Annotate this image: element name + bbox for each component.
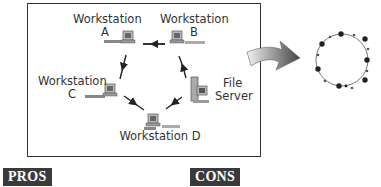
label-line: Workstation D xyxy=(118,130,202,143)
file-server-label: File Server xyxy=(215,77,253,103)
workstation-a-label: Workstation A xyxy=(73,13,135,39)
label-line: A xyxy=(73,26,135,39)
curved-arrow-icon xyxy=(247,41,300,70)
workstation-b-label: Workstation B xyxy=(160,13,224,39)
workstation-d-label: Workstation D xyxy=(118,130,202,143)
label-line: B xyxy=(160,26,224,39)
server-icon xyxy=(191,77,209,103)
workstation-icon xyxy=(144,114,180,130)
pros-heading: PROS xyxy=(3,168,52,186)
cons-heading: CONS xyxy=(190,168,240,186)
workstation-c-label: Workstation C xyxy=(38,75,102,101)
label-line: Server xyxy=(215,90,253,103)
label-line: C xyxy=(38,88,102,101)
ring-topology-icon xyxy=(315,31,369,89)
